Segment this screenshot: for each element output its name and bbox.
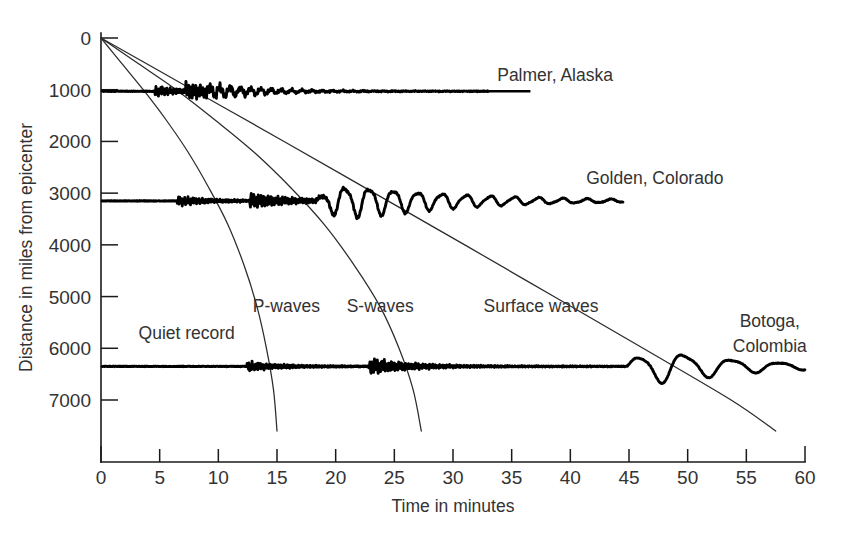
- x-axis-tick-label: 35: [501, 467, 522, 488]
- phase-label-s-waves: S-waves: [347, 296, 414, 316]
- y-axis-tick-label: 3000: [49, 183, 91, 204]
- y-axis-tick-label: 2000: [49, 131, 91, 152]
- y-axis-tick-label: 5000: [49, 287, 91, 308]
- phase-label-surface-waves: Surface waves: [484, 296, 599, 316]
- x-axis-tick-label: 20: [325, 467, 346, 488]
- x-axis-title: Time in minutes: [392, 496, 515, 516]
- x-axis-tick-label: 45: [618, 467, 639, 488]
- x-axis-tick-label: 5: [154, 467, 165, 488]
- travel-time-curves-group: [101, 38, 776, 431]
- y-axis-tick-label: 7000: [49, 390, 91, 411]
- seismogram-trace-golden-colorado: [102, 187, 623, 218]
- x-axis-tick-label: 60: [794, 467, 815, 488]
- axes-group: 0100020003000400050006000700005101520253…: [16, 28, 816, 516]
- x-axis-tick-label: 50: [677, 467, 698, 488]
- seismogram-trace-palmer-alaska: [102, 81, 488, 99]
- x-axis-tick-label: 10: [208, 467, 229, 488]
- y-axis-tick-label: 1000: [49, 80, 91, 101]
- x-axis-tick-label: 30: [442, 467, 463, 488]
- seismogram-trace-botoga-colombia: [102, 355, 805, 383]
- x-axis-tick-label: 40: [560, 467, 581, 488]
- chart-canvas: 0100020003000400050006000700005101520253…: [0, 0, 861, 539]
- phase-label-p-waves: P-waves: [253, 296, 320, 316]
- station-label-golden-colorado: Golden, Colorado: [586, 168, 723, 188]
- station-label-botoga-colombia-line1: Botoga,: [740, 311, 800, 331]
- annotation-quiet-record: Quiet record: [139, 323, 235, 343]
- station-label-palmer-alaska: Palmer, Alaska: [497, 65, 613, 85]
- station-label-botoga-colombia-line2: Colombia: [733, 336, 807, 356]
- y-axis-title: Distance in miles from epicenter: [16, 123, 36, 372]
- x-axis-tick-label: 55: [736, 467, 757, 488]
- chart-labels-group: P-wavesS-wavesSurface wavesPalmer, Alask…: [139, 65, 807, 357]
- y-axis-tick-label: 6000: [49, 338, 91, 359]
- seismogram-travel-time-figure: 0100020003000400050006000700005101520253…: [0, 0, 861, 539]
- y-axis-tick-label: 0: [80, 28, 91, 49]
- x-axis-tick-label: 15: [266, 467, 287, 488]
- y-axis-tick-label: 4000: [49, 235, 91, 256]
- travel-time-curve-surface-waves: [101, 38, 776, 431]
- x-axis-tick-label: 25: [384, 467, 405, 488]
- x-axis-tick-label: 0: [96, 467, 107, 488]
